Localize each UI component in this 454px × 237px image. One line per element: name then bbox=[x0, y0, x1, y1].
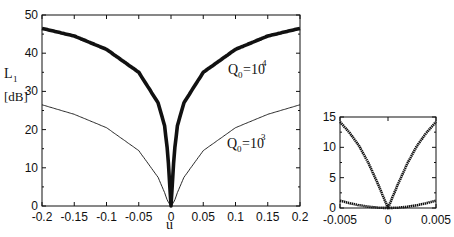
curve-q0-10-4 bbox=[340, 122, 436, 208]
inset-axis-ticks: -0.00500.005051015 bbox=[323, 110, 452, 227]
main-plot-curves bbox=[42, 28, 300, 206]
x-tick-label: 0 bbox=[385, 213, 392, 227]
y-axis-label-sub: 1 bbox=[13, 74, 18, 84]
y-tick-label: 0 bbox=[31, 199, 38, 213]
figure: -0.2-0.15-0.1-0.0500.050.10.150.20102030… bbox=[0, 0, 454, 237]
svg-text:Q: Q bbox=[228, 62, 238, 77]
y-tick-label: 15 bbox=[323, 110, 337, 124]
svg-text:3: 3 bbox=[261, 132, 266, 142]
x-tick-label: 0.15 bbox=[256, 210, 280, 224]
x-tick-label: -0.005 bbox=[323, 213, 357, 227]
y-tick-label: 5 bbox=[329, 171, 336, 185]
svg-text:4: 4 bbox=[262, 58, 267, 68]
x-axis-label: u bbox=[166, 217, 173, 232]
y-tick-label: 20 bbox=[25, 123, 39, 137]
y-tick-label: 0 bbox=[329, 201, 336, 215]
x-tick-label: 0.05 bbox=[192, 210, 216, 224]
inset-plot-frame bbox=[340, 117, 436, 208]
x-tick-label: 0.1 bbox=[227, 210, 244, 224]
svg-text:Q: Q bbox=[227, 136, 237, 151]
x-tick-label: 0.005 bbox=[421, 213, 451, 227]
y-tick-label: 10 bbox=[25, 161, 39, 175]
x-tick-label: 0.2 bbox=[292, 210, 309, 224]
annotation-q0-1e3: Q 0 =10 3 bbox=[227, 132, 266, 154]
y-axis-label: L bbox=[4, 66, 13, 81]
main-axis-ticks: -0.2-0.15-0.1-0.0500.050.10.150.20102030… bbox=[25, 8, 309, 224]
inset-plot-curves bbox=[340, 122, 436, 208]
y-axis-unit: [dB] bbox=[4, 89, 28, 104]
x-tick-label: -0.05 bbox=[125, 210, 153, 224]
annotation-q0-1e4: Q 0 =10 4 bbox=[228, 58, 267, 80]
y-tick-label: 10 bbox=[323, 140, 337, 154]
y-tick-label: 50 bbox=[25, 8, 39, 22]
x-tick-label: -0.15 bbox=[61, 210, 89, 224]
y-tick-label: 40 bbox=[25, 46, 39, 60]
x-tick-label: -0.1 bbox=[96, 210, 117, 224]
